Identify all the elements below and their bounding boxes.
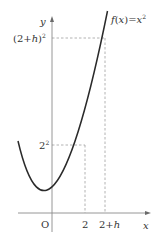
x-tick-label-2-plus-h: 2+h <box>99 219 120 230</box>
y-axis-label: y <box>39 16 46 27</box>
function-graph: y x O 2 2+h 22 (2+h)2 f(x)=x2 <box>0 0 160 246</box>
y-tick-label-2h-squared: (2+h)2 <box>13 32 46 44</box>
function-label: f(x)=x2 <box>110 13 146 25</box>
y-axis-arrow-icon <box>50 16 54 22</box>
x-axis-arrow-icon <box>145 211 151 215</box>
function-label-exp: 2 <box>142 13 146 20</box>
x-tick-2h-text: 2+ <box>99 219 114 230</box>
origin-label: O <box>41 219 49 230</box>
y-tick-2h-exp: 2 <box>42 32 46 39</box>
y-tick-label-2-squared: 22 <box>39 139 49 151</box>
x-axis-label: x <box>143 220 149 231</box>
x-tick-label-2: 2 <box>82 219 88 230</box>
x-tick-h: h <box>114 219 120 230</box>
function-label-eq: )= <box>124 14 136 25</box>
y-tick-2h-open: (2+ <box>13 33 32 44</box>
y-tick-exp: 2 <box>45 139 49 146</box>
